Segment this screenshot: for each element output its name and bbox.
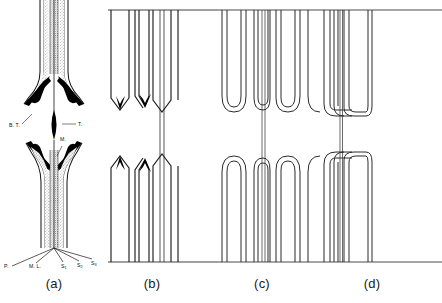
caption-panel-a: (a) (18, 276, 90, 291)
caption-panel-b: (b) (116, 276, 188, 291)
panel-a: B. T. T. M. P. M. L. S1 S2 S3 (0, 0, 108, 278)
lower-stem-region (26, 140, 82, 248)
strand-1-sub: 1 (65, 266, 67, 270)
figure-root: B. T. T. M. P. M. L. S1 S2 S3 (0, 0, 442, 303)
caption-panel-d: (d) (336, 276, 408, 291)
strand-3-sub: 3 (95, 263, 97, 267)
panel-a-drawing (0, 0, 108, 278)
label-strand-1: S1 (61, 263, 67, 269)
panel-d (322, 0, 442, 278)
panel-c (218, 0, 322, 278)
panel-b-strands (108, 10, 218, 262)
panel-d-strands (322, 10, 442, 262)
label-midrib: M. (60, 136, 66, 142)
upper-stem-region (24, 0, 84, 120)
label-median-leaf: M. L. (29, 263, 41, 269)
label-trace: T. (78, 121, 82, 127)
panel-c-strands (218, 10, 322, 262)
caption-panel-c: (c) (226, 276, 298, 291)
label-petiole: P. (4, 263, 8, 269)
panel-c-drawing (218, 0, 322, 278)
central-lens-body (52, 110, 57, 140)
panel-b (108, 0, 218, 278)
label-strand-2: S2 (77, 262, 83, 268)
label-strand-3: S3 (91, 260, 97, 266)
panel-b-drawing (108, 0, 218, 278)
label-branch-trace: B. T. (9, 122, 20, 128)
caption-row: (a) (b) (c) (d) (0, 276, 442, 303)
strand-2-sub: 2 (81, 265, 83, 269)
panel-d-drawing (322, 0, 442, 278)
